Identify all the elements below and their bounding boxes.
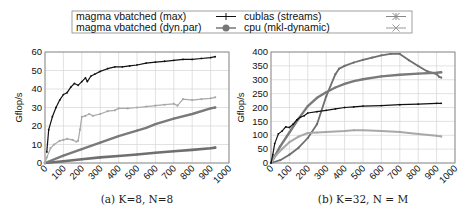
- data-point: [307, 112, 309, 114]
- data-point: [164, 60, 166, 62]
- data-point: [335, 108, 337, 110]
- data-point: [59, 99, 61, 101]
- x-tick-label: 200: [67, 163, 86, 182]
- data-point: [77, 84, 79, 86]
- data-point: [277, 133, 279, 135]
- legend-label-1: magma vbatched (dyn.par): [76, 21, 201, 33]
- data-point: [173, 103, 175, 105]
- x-tick-label: 300: [86, 163, 105, 182]
- data-point: [303, 115, 305, 117]
- data-point: [107, 68, 109, 70]
- x-tick-label: 700: [159, 163, 178, 182]
- data-point: [325, 131, 327, 133]
- x-tick-label: 300: [312, 163, 331, 182]
- data-point: [81, 81, 83, 83]
- y-tick-label: 100: [252, 129, 268, 140]
- x-tick-label: 600: [367, 163, 386, 182]
- data-point: [66, 92, 68, 94]
- data-point: [214, 147, 216, 149]
- x-tick-label: 0: [38, 163, 50, 175]
- data-point: [344, 107, 346, 109]
- data-point: [289, 127, 291, 129]
- data-point: [344, 130, 346, 132]
- data-point: [173, 150, 175, 152]
- data-point: [129, 65, 131, 67]
- data-point: [70, 86, 72, 88]
- data-point: [182, 59, 184, 61]
- data-point: [298, 147, 300, 149]
- data-point: [145, 62, 147, 64]
- data-point: [344, 65, 346, 67]
- data-point: [88, 113, 90, 115]
- data-point: [288, 154, 290, 156]
- data-point: [353, 106, 355, 108]
- data-point: [285, 126, 287, 128]
- data-point: [344, 83, 346, 85]
- data-point: [300, 116, 302, 118]
- data-point: [51, 116, 53, 118]
- y-tick-label: 60: [31, 46, 42, 57]
- x-tick-label: 700: [385, 163, 404, 182]
- y-tick-label: 50: [257, 143, 268, 154]
- data-point: [334, 86, 336, 88]
- data-point: [381, 105, 383, 107]
- caption-b: (b) K=32, N = M: [318, 193, 409, 205]
- data-point: [417, 73, 419, 75]
- data-point: [353, 129, 355, 131]
- data-point: [316, 131, 318, 133]
- data-point: [296, 119, 298, 121]
- data-point: [48, 129, 50, 131]
- x-tick-label: 1000: [437, 163, 460, 186]
- data-point: [270, 162, 272, 164]
- data-point: [191, 99, 193, 101]
- x-tick-label: 600: [141, 163, 160, 182]
- data-point: [334, 73, 336, 75]
- data-point: [90, 75, 92, 77]
- data-point: [390, 53, 392, 55]
- data-point: [307, 105, 309, 107]
- data-point: [118, 155, 120, 157]
- y-axis-label: Gflop/s: [13, 92, 24, 122]
- data-point: [173, 59, 175, 61]
- data-point: [62, 160, 64, 162]
- data-point: [154, 152, 156, 154]
- data-point: [440, 135, 442, 137]
- data-point: [164, 104, 166, 106]
- data-point: [118, 107, 120, 109]
- x-tick-label: 500: [122, 163, 141, 182]
- data-point: [81, 148, 83, 150]
- data-point: [399, 53, 401, 55]
- data-point: [214, 106, 216, 108]
- data-point: [191, 59, 193, 61]
- data-point: [316, 111, 318, 113]
- data-point: [121, 66, 123, 68]
- data-point: [136, 106, 138, 108]
- data-point: [84, 115, 86, 117]
- y-tick-label: 10: [31, 139, 42, 150]
- data-point: [307, 132, 309, 134]
- data-point: [136, 153, 138, 155]
- data-point: [214, 96, 216, 98]
- y-tick-label: 40: [31, 83, 42, 94]
- data-point: [118, 135, 120, 137]
- x-tick-label: 1000: [211, 163, 234, 186]
- caption-a: (a) K=8, N=8: [101, 193, 173, 205]
- data-point: [63, 94, 65, 96]
- data-point: [114, 66, 116, 68]
- data-point: [86, 81, 88, 83]
- data-point: [99, 71, 101, 73]
- data-point: [127, 107, 129, 109]
- series-line: [47, 57, 215, 152]
- data-point: [136, 130, 138, 132]
- figure: magma vbatched (max) magma vbatched (dyn…: [0, 0, 474, 218]
- data-point: [417, 65, 419, 67]
- data-point: [417, 133, 419, 135]
- data-point: [214, 56, 216, 58]
- data-point: [380, 54, 382, 56]
- x-tick-label: 0: [264, 163, 276, 175]
- data-point: [362, 129, 364, 131]
- data-point: [53, 143, 55, 145]
- data-point: [440, 76, 442, 78]
- y-tick-label: 150: [252, 116, 268, 127]
- data-point: [292, 123, 294, 125]
